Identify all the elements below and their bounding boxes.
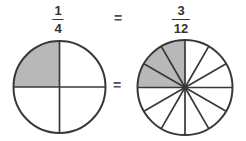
equals-sign-middle: =: [113, 78, 121, 92]
circle-models-svg: [0, 0, 246, 141]
fraction-bar: [172, 19, 190, 21]
equals-sign-top: =: [114, 11, 122, 25]
quarters-circle: [14, 41, 106, 133]
fraction-denominator: 12: [172, 22, 190, 35]
fraction-equivalence-diagram: 1 4 = 3 12 =: [0, 0, 246, 141]
fraction-three-twelfths: 3 12: [172, 4, 190, 35]
fraction-numerator: 3: [175, 4, 186, 17]
fraction-one-fourth: 1 4: [52, 4, 63, 35]
fraction-numerator: 1: [52, 4, 63, 17]
fraction-denominator: 4: [52, 22, 63, 35]
twelfths-circle: [138, 40, 233, 135]
fraction-bar: [52, 19, 63, 21]
